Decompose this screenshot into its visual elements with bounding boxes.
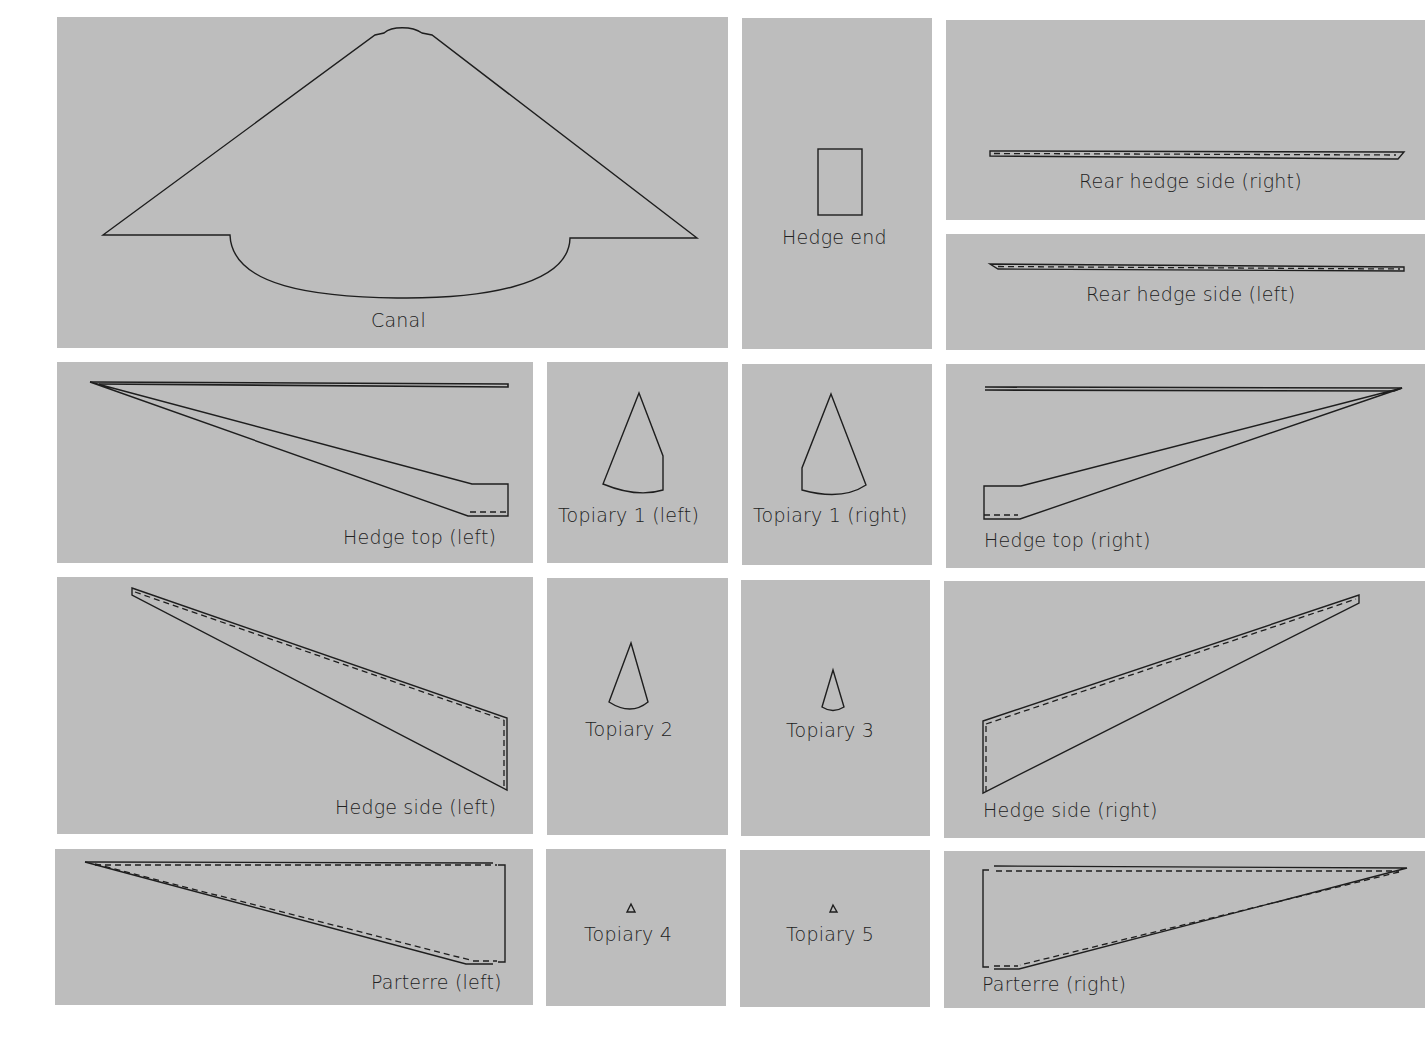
panel-rear-hedge-side-left: Rear hedge side (left): [946, 234, 1425, 350]
topiary-3-label: Topiary 3: [786, 719, 874, 741]
topiary-1-left-label: Topiary 1 (left): [558, 504, 699, 526]
panel-hedge-end: Hedge end: [742, 18, 932, 349]
hedge-end-template-shape: [742, 18, 932, 349]
panel-topiary-4: Topiary 4: [546, 849, 726, 1006]
parterre-right-label: Parterre (right): [982, 973, 1126, 995]
topiary-2-label: Topiary 2: [585, 718, 673, 740]
panel-hedge-top-right: Hedge top (right): [946, 364, 1425, 568]
panel-canal: Canal: [57, 17, 728, 348]
canal-template-shape: [57, 17, 728, 348]
rear-hedge-side-right-label: Rear hedge side (right): [1079, 170, 1302, 192]
hedge-side-left-label: Hedge side (left): [335, 796, 496, 818]
panel-hedge-top-left: Hedge top (left): [57, 362, 533, 563]
rear-hedge-side-left-label: Rear hedge side (left): [1086, 283, 1295, 305]
panel-hedge-side-right: Hedge side (right): [944, 581, 1425, 838]
topiary-3-template-shape: [741, 580, 930, 836]
panel-topiary-1-right: Topiary 1 (right): [742, 364, 932, 565]
topiary-1-right-template-shape: [742, 364, 932, 565]
parterre-left-label: Parterre (left): [371, 971, 502, 993]
hedge-top-right-label: Hedge top (right): [984, 529, 1151, 551]
hedge-end-label: Hedge end: [782, 226, 887, 248]
panel-rear-hedge-side-right: Rear hedge side (right): [946, 20, 1425, 220]
panel-topiary-5: Topiary 5: [740, 850, 930, 1007]
topiary-2-template-shape: [547, 578, 728, 835]
hedge-top-left-label: Hedge top (left): [343, 526, 496, 548]
topiary-4-label: Topiary 4: [584, 923, 672, 945]
hedge-side-right-label: Hedge side (right): [983, 799, 1158, 821]
topiary-1-right-label: Topiary 1 (right): [753, 504, 907, 526]
panel-topiary-1-left: Topiary 1 (left): [547, 362, 728, 563]
panel-hedge-side-left: Hedge side (left): [57, 577, 533, 834]
canal-label: Canal: [371, 309, 426, 331]
panel-parterre-right: Parterre (right): [944, 851, 1425, 1008]
topiary-5-label: Topiary 5: [786, 923, 874, 945]
panel-topiary-2: Topiary 2: [547, 578, 728, 835]
topiary-1-left-template-shape: [547, 362, 728, 563]
panel-parterre-left: Parterre (left): [55, 849, 533, 1005]
panel-topiary-3: Topiary 3: [741, 580, 930, 836]
